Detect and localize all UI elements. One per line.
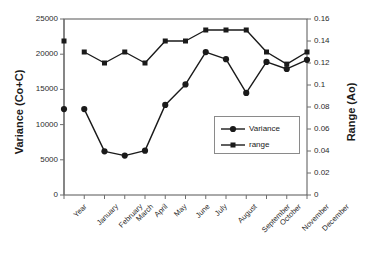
y-axis-right-tick-label: 0.04 [314,146,348,155]
legend-marker-square [231,143,236,148]
data-point [284,66,290,72]
data-point [263,59,269,65]
y-axis-left-tick-label: 5000 [2,155,58,164]
data-point [224,28,229,33]
data-point [82,50,87,55]
y-axis-right-tick-label: 0.12 [314,58,348,67]
y-axis-right-tick-label: 0.02 [314,168,348,177]
data-point [62,39,67,44]
data-point [61,106,67,112]
y-axis-left-tick-label: 0 [2,190,58,199]
x-axis-ticks [64,195,307,199]
data-point [203,28,208,33]
data-point [203,49,209,55]
legend-marker-circle [230,126,236,132]
y-axis-right-tick-label: 0.16 [314,14,348,23]
data-point [101,148,107,154]
data-point [244,28,249,33]
series-range [62,28,310,67]
legend-item-label: Variance [249,124,280,133]
data-point [304,57,310,63]
data-point [264,50,269,55]
y-axis-right-tick-label: 0.08 [314,102,348,111]
plot-frame [64,19,307,195]
data-point [122,50,127,55]
data-point [305,50,310,55]
y-axis-left-tick-label: 10000 [2,120,58,129]
chart-legend: Variancerange [214,116,300,154]
data-point [223,56,229,62]
data-point [102,61,107,66]
y-axis-right-tick-label: 0.06 [314,124,348,133]
data-point [182,81,188,87]
y-axis-right-tick-label: 0 [314,190,348,199]
legend-item-label: range [249,140,269,149]
y-axis-left-tick-label: 20000 [2,49,58,58]
legend-markers [215,117,301,155]
data-point [81,106,87,112]
y-axis-right-tick-label: 0.1 [314,80,348,89]
y-axis-left-tick-label: 25000 [2,14,58,23]
data-point [183,39,188,44]
chart-figure: Variance (Co+C) Range (Ao) 0500010000150… [0,0,366,253]
data-point [142,148,148,154]
y-axis-left-tick-label: 15000 [2,84,58,93]
data-point [162,102,168,108]
data-point [243,90,249,96]
y-axis-right-tick-label: 0.14 [314,36,348,45]
axis-frame [64,19,307,195]
data-point [163,39,168,44]
data-point [143,61,148,66]
data-point [122,152,128,158]
y-axis-right-ticks [307,19,311,195]
data-point [284,62,289,67]
